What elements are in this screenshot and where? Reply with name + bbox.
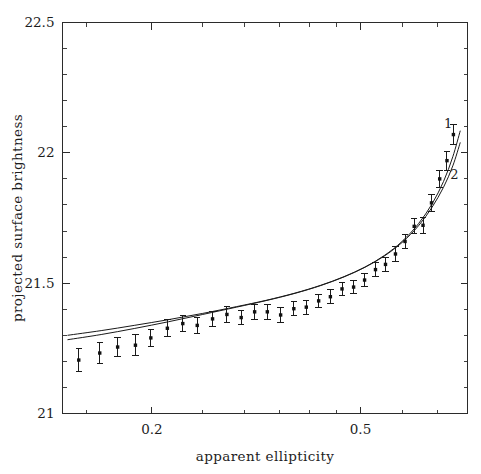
data-marker xyxy=(421,224,424,227)
data-marker xyxy=(384,263,387,266)
data-marker xyxy=(211,317,214,320)
data-marker xyxy=(352,285,355,288)
data-marker xyxy=(279,313,282,316)
data-marker xyxy=(329,295,332,298)
data-marker xyxy=(77,358,80,361)
data-marker xyxy=(394,252,397,255)
curve-label-2: 2 xyxy=(450,167,458,182)
curve-label-1: 1 xyxy=(444,116,452,131)
figure-container: 0.20.5 2121.52222.5 12 apparent elliptic… xyxy=(0,0,481,474)
y-tick-label: 21.5 xyxy=(24,275,54,291)
data-marker xyxy=(292,307,295,310)
x-tick-label: 0.5 xyxy=(350,421,371,437)
x-axis-title: apparent ellipticity xyxy=(196,448,335,464)
data-marker xyxy=(363,278,366,281)
y-tick-label: 22.5 xyxy=(24,14,54,30)
x-tick-label: 0.2 xyxy=(141,421,162,437)
data-marker xyxy=(430,201,433,204)
data-marker xyxy=(317,299,320,302)
data-marker xyxy=(134,344,137,347)
scatter-plot: 0.20.5 2121.52222.5 12 apparent elliptic… xyxy=(0,0,481,474)
data-marker xyxy=(403,240,406,243)
data-marker xyxy=(239,316,242,319)
data-marker xyxy=(149,336,152,339)
data-marker xyxy=(116,345,119,348)
data-marker xyxy=(305,305,308,308)
data-marker xyxy=(445,159,448,162)
data-marker xyxy=(196,324,199,327)
data-marker xyxy=(266,310,269,313)
y-tick-label: 21 xyxy=(37,405,54,421)
data-marker xyxy=(98,351,101,354)
y-axis-title: projected surface brightness xyxy=(9,114,25,322)
data-marker xyxy=(413,225,416,228)
data-marker xyxy=(253,310,256,313)
data-marker xyxy=(225,313,228,316)
data-marker xyxy=(438,177,441,180)
plot-background xyxy=(0,0,481,474)
data-marker xyxy=(452,133,455,136)
data-marker xyxy=(166,327,169,330)
data-marker xyxy=(181,322,184,325)
data-marker xyxy=(340,287,343,290)
y-tick-label: 22 xyxy=(37,144,54,160)
data-marker xyxy=(374,268,377,271)
